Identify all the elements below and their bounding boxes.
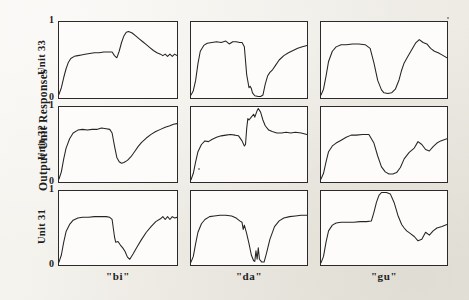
panel-unit-31-da (190, 190, 308, 266)
ytick-top-row-3: 1 (44, 184, 54, 194)
panel-unit-33-gu (320, 21, 448, 99)
row-label-unit-33: Unit 33 (36, 13, 47, 103)
trace-svg-unit-33-da (191, 22, 307, 98)
figure-output-unit-responses: Output Unit Responses Unit 33 Unit 32 Un… (0, 0, 469, 300)
trace-line (59, 217, 177, 262)
trace-line (59, 32, 177, 95)
scan-speck (198, 168, 200, 170)
ytick-top-row-1: 1 (44, 15, 54, 25)
trace-line (191, 41, 307, 96)
column-label-gu: "gu" (320, 270, 448, 282)
column-label-da: "da" (190, 270, 308, 282)
panel-unit-31-gu (320, 190, 448, 266)
trace-line (59, 124, 177, 179)
row-label-unit-31: Unit 31 (36, 182, 47, 272)
scan-speck (447, 17, 449, 19)
panel-unit-31-bi (58, 190, 178, 266)
panel-unit-33-da (190, 21, 308, 99)
trace-svg-unit-33-bi (59, 22, 177, 98)
panel-unit-33-bi (58, 21, 178, 99)
trace-svg-unit-32-bi (59, 107, 177, 182)
trace-line (321, 40, 447, 95)
row-label-unit-32: Unit 32 (36, 98, 47, 188)
trace-svg-unit-32-da (191, 107, 307, 182)
trace-svg-unit-32-gu (321, 107, 447, 182)
column-label-bi: "bi" (58, 270, 178, 282)
panel-unit-32-bi (58, 106, 178, 183)
ytick-bottom-row-3: 0 (44, 259, 54, 269)
trace-svg-unit-33-gu (321, 22, 447, 98)
trace-line (191, 109, 307, 180)
trace-svg-unit-31-gu (321, 191, 447, 265)
trace-svg-unit-31-da (191, 191, 307, 265)
panel-unit-32-da (190, 106, 308, 183)
trace-line (321, 134, 447, 179)
trace-line (321, 192, 447, 262)
trace-svg-unit-31-bi (59, 191, 177, 265)
trace-line (191, 215, 307, 262)
ytick-top-row-2: 1 (44, 100, 54, 110)
panel-unit-32-gu (320, 106, 448, 183)
